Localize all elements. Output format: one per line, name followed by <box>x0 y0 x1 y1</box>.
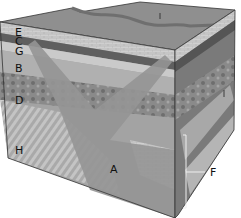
label-b: B <box>15 63 23 74</box>
label-d: D <box>15 95 23 106</box>
label-h: H <box>15 145 23 156</box>
label-f: F <box>210 167 216 178</box>
label-a: A <box>110 164 118 175</box>
block-diagram <box>0 0 241 218</box>
front-face <box>0 22 175 218</box>
label-g: G <box>15 46 24 57</box>
